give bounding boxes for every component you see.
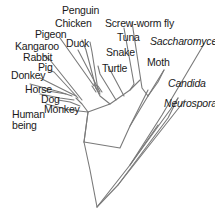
label-saccharomyces: Saccharomyces — [150, 36, 215, 47]
label-snake: Snake — [106, 47, 135, 58]
branch-duck — [78, 50, 100, 92]
label-moth: Moth — [147, 57, 170, 68]
label-candida: Candida — [168, 78, 206, 89]
label-turtle: Turtle — [102, 63, 127, 74]
label-monkey: Monkey — [44, 104, 80, 115]
label-duck: Duck — [66, 38, 89, 49]
label-donkey: Donkey — [11, 70, 45, 81]
branch-insects — [130, 70, 164, 126]
label-neurospora: Neurospora — [164, 98, 215, 109]
label-human-being: Human being — [12, 109, 45, 131]
label-tuna: Tuna — [117, 32, 140, 43]
branch-vertebrates — [84, 80, 140, 142]
branch-neurospora — [118, 100, 185, 185]
label-penguin: Penguin — [62, 5, 99, 16]
label-screw-worm-fly: Screw-worm fly — [105, 18, 174, 29]
branch-fungi-split — [97, 125, 158, 207]
branch-animals — [84, 90, 148, 148]
label-pigeon: Pigeon — [35, 29, 67, 40]
